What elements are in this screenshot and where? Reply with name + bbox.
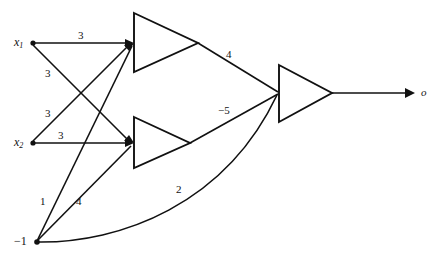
- weight-label-x1-to-hidden-top: 3: [78, 30, 84, 41]
- node-dot-bias: [34, 239, 40, 245]
- edge-bias-to-output: [38, 95, 277, 242]
- neuron-group: [134, 13, 332, 168]
- neuron-hidden-bottom: [134, 117, 190, 168]
- weight-label-hidden-bottom-to-output: −5: [218, 105, 230, 116]
- label-input-2: x2: [14, 136, 23, 148]
- neuron-hidden-top: [134, 13, 198, 72]
- neuron-output: [279, 65, 332, 122]
- output-arrow-group: [332, 88, 415, 98]
- label-bias-node: −1: [14, 235, 27, 247]
- weight-label-bias-to-hidden-bottom: 4: [76, 196, 82, 207]
- weight-label-x2-to-hidden-bottom: 3: [58, 130, 64, 141]
- weight-label-bias-to-output: 2: [176, 184, 182, 195]
- label-input-1: x1: [14, 36, 23, 48]
- network-graphics: [0, 0, 440, 265]
- edge-bias-to-hidden-bottom: [37, 146, 131, 241]
- node-dot-input-2: [30, 140, 35, 145]
- network-diagram: x1 x2 −1 o 3 3 3 3 1 4 4 −5 2: [0, 0, 440, 265]
- arrowhead-output-signal: [405, 88, 415, 98]
- weight-label-x1-to-hidden-bottom: 3: [45, 68, 51, 79]
- node-dot-input-1: [30, 40, 35, 45]
- edge-group-input-to-hidden: [33, 39, 134, 147]
- weight-label-bias-to-hidden-top: 1: [40, 196, 46, 207]
- weight-label-hidden-top-to-output: 4: [226, 49, 232, 60]
- label-output-signal: o: [421, 87, 427, 98]
- edge-hidden-top-to-output: [198, 43, 278, 92]
- weight-label-x2-to-hidden-top: 3: [45, 108, 51, 119]
